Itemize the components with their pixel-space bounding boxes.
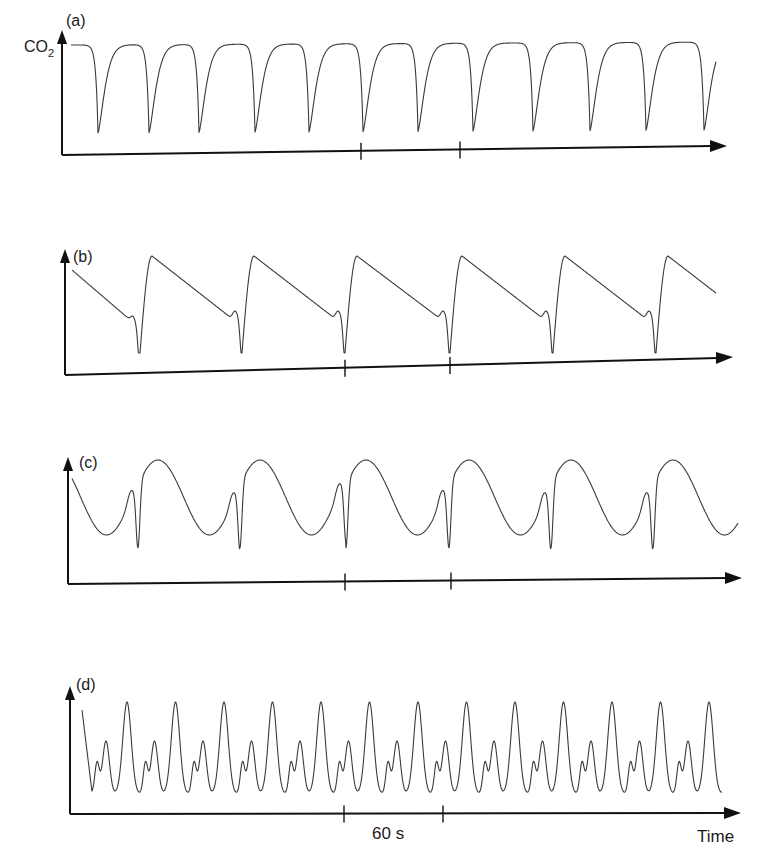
y-axis-label: CO2 — [24, 38, 54, 59]
panel-c-label: (c) — [79, 454, 98, 471]
panel-d-y-arrow-icon — [65, 686, 75, 700]
panel-b-trace — [72, 256, 716, 353]
panel-c-x-axis — [68, 578, 727, 584]
x-axis-label: Time — [697, 827, 734, 846]
panel-d: (d) 60 s Time — [65, 676, 741, 846]
panel-d-x-arrow-icon — [724, 807, 741, 819]
panel-c-x-arrow-icon — [725, 572, 742, 584]
panel-d-trace — [82, 702, 722, 792]
panel-a-x-arrow-icon — [710, 140, 727, 152]
panel-c-y-arrow-icon — [63, 457, 73, 471]
panel-b: (b) — [60, 248, 733, 377]
panel-a-trace — [71, 42, 716, 133]
panel-d-label: (d) — [76, 676, 96, 693]
panel-c: (c) — [63, 454, 742, 590]
panel-a-label: (a) — [66, 12, 86, 29]
panel-b-label: (b) — [73, 248, 93, 265]
panel-b-x-axis — [65, 358, 718, 375]
scale-bar-label: 60 s — [372, 824, 404, 843]
panel-a: (a) CO2 — [24, 12, 727, 160]
panel-d-x-axis — [70, 813, 726, 814]
panel-a-y-arrow-icon — [57, 30, 67, 44]
co2-breathing-figure: (a) CO2 (b) (c) (d) 60 s T — [0, 0, 757, 847]
panel-a-x-axis — [62, 146, 712, 155]
panel-c-trace — [72, 460, 738, 549]
panel-b-x-arrow-icon — [716, 352, 733, 364]
panel-b-y-arrow-icon — [60, 249, 70, 263]
